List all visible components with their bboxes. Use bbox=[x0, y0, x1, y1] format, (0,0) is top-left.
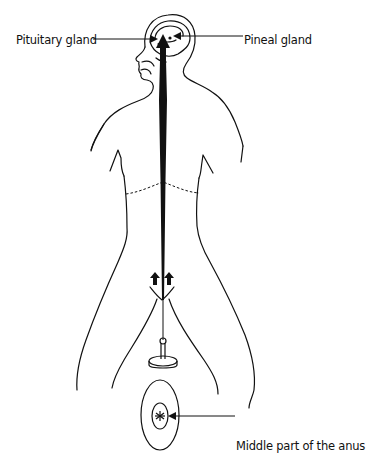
pituitary-gland-label: Pituitary gland bbox=[16, 33, 97, 47]
left-torso bbox=[77, 176, 127, 390]
left-breast-mark bbox=[110, 150, 124, 176]
pituitary-pointer bbox=[93, 35, 158, 43]
right-breast-mark bbox=[199, 155, 213, 178]
left-inner-leg bbox=[112, 299, 157, 388]
head-outline bbox=[145, 15, 243, 146]
body-diagram bbox=[0, 0, 373, 465]
face-outline bbox=[91, 47, 153, 150]
left-arm bbox=[91, 124, 104, 151]
anus-center-mark bbox=[155, 411, 165, 421]
right-arm bbox=[241, 146, 243, 162]
spine-channel bbox=[159, 46, 167, 300]
pineal-gland-label: Pineal gland bbox=[244, 33, 312, 47]
right-torso bbox=[197, 178, 255, 408]
perineum-stand bbox=[149, 338, 177, 368]
right-inner-leg bbox=[169, 299, 218, 394]
anus-pointer bbox=[168, 412, 235, 420]
spine-arrow-head bbox=[156, 34, 170, 48]
pineal-pointer bbox=[168, 32, 243, 40]
anus-label: Middle part of the anus bbox=[236, 439, 365, 453]
